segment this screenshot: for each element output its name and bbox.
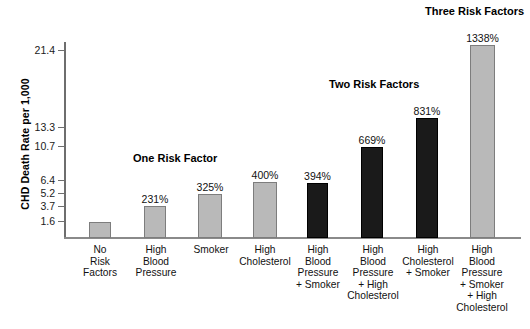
y-axis-tick-mark [58, 180, 65, 181]
y-axis-tick-mark [58, 206, 65, 207]
chart-page: CHD Death Rate per 1,000 21.413.310.76.4… [0, 0, 530, 329]
group-annotation: Two Risk Factors [329, 78, 419, 90]
bar-value-label: 394% [283, 170, 353, 182]
x-axis-category-line: Cholesterol [342, 290, 404, 302]
bar-value-label: 831% [392, 105, 462, 117]
x-axis-category-line: Blood [288, 256, 348, 268]
bar [144, 206, 166, 238]
bar [198, 194, 222, 238]
x-axis-category-line: High [450, 244, 514, 256]
bar [253, 182, 277, 238]
x-axis-category-line: Pressure [288, 267, 348, 279]
x-axis-category-label: Smoker [182, 244, 240, 256]
bar-value-label: 231% [120, 193, 190, 205]
x-axis-line [64, 237, 521, 239]
x-axis-category-line: + High [450, 290, 514, 302]
bar [416, 118, 438, 238]
y-axis-tick-label: 5.2 [25, 187, 55, 199]
bar [470, 45, 495, 238]
x-axis-category-line: Pressure [450, 267, 514, 279]
group-annotation: Three Risk Factors [425, 5, 524, 17]
y-axis-tick-label: 13.3 [25, 121, 55, 133]
bar-value-label: 669% [337, 134, 407, 146]
x-axis-category-line: Blood [128, 256, 184, 268]
x-axis-category-label: HighBloodPressure+ Smoker+ HighCholester… [450, 244, 514, 314]
y-axis-tick-mark [58, 193, 65, 194]
x-axis-category-line: Cholesterol [450, 302, 514, 314]
y-axis-tick-label: 3.7 [25, 200, 55, 212]
y-axis-tick-mark [58, 50, 65, 51]
x-axis-category-line: Blood [450, 256, 514, 268]
y-axis-tick-mark [58, 146, 65, 147]
x-axis-category-line: Pressure [128, 267, 184, 279]
x-axis-category-line: + High [342, 279, 404, 291]
y-axis-tick-label: 21.4 [25, 44, 55, 56]
bar [307, 183, 328, 238]
y-axis-tick-mark [58, 127, 65, 128]
y-axis-tick-label: 6.4 [25, 174, 55, 186]
x-axis-category-line: + Smoker [450, 279, 514, 291]
x-axis-category-line: Smoker [182, 244, 240, 256]
y-axis-tick-mark [58, 221, 65, 222]
x-axis-category-label: HighBloodPressure [128, 244, 184, 279]
x-axis-category-line: No [74, 244, 126, 256]
y-axis-tick-label: 1.6 [25, 215, 55, 227]
bar [361, 147, 383, 238]
x-axis-category-line: + Smoker [288, 279, 348, 291]
x-axis-category-line: High [128, 244, 184, 256]
x-axis-category-line: Factors [74, 267, 126, 279]
y-axis-line [64, 42, 66, 238]
bar [89, 222, 111, 238]
bar-value-label: 1338% [448, 32, 518, 44]
x-axis-category-line: Risk [74, 256, 126, 268]
x-axis-category-label: HighBloodPressure+ Smoker [288, 244, 348, 290]
x-axis-category-label: NoRiskFactors [74, 244, 126, 279]
group-annotation: One Risk Factor [133, 152, 217, 164]
bar-value-label: 325% [175, 181, 245, 193]
y-axis-tick-label: 10.7 [25, 140, 55, 152]
x-axis-category-line: High [288, 244, 348, 256]
